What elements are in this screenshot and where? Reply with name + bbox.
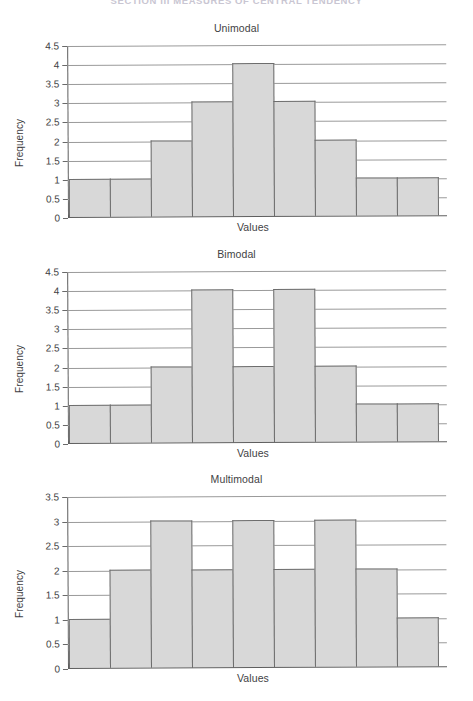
y-tick-mark <box>63 620 68 621</box>
chart-title-bimodal: Bimodal <box>0 248 473 260</box>
y-tick-label: 1.5 <box>46 381 60 392</box>
y-tick-mark <box>63 571 68 572</box>
x-axis-label-multimodal: Values <box>68 672 438 684</box>
y-tick-label: 1.5 <box>46 590 60 601</box>
y-tick-mark <box>63 425 68 426</box>
y-axis-label-unimodal: Frequency <box>14 155 25 167</box>
bar <box>192 569 234 667</box>
y-tick-label: 4.5 <box>45 41 59 52</box>
y-tick-mark <box>63 387 68 388</box>
y-tick-mark <box>63 348 68 349</box>
bar-group-bimodal <box>68 270 438 443</box>
y-tick-label: 3.5 <box>45 305 59 316</box>
bar <box>191 289 234 442</box>
y-tick-mark <box>63 406 68 407</box>
bar <box>356 568 398 666</box>
y-tick-label: 3.5 <box>45 79 59 90</box>
y-tick-label: 4 <box>54 286 60 297</box>
chart-title-multimodal: Multimodal <box>0 473 473 485</box>
bar <box>69 619 111 668</box>
y-tick-label: 3 <box>54 516 60 527</box>
bar <box>232 63 275 216</box>
y-tick-label: 1.5 <box>46 155 60 166</box>
y-tick-label: 0 <box>54 439 60 450</box>
bar <box>356 403 398 441</box>
bar-group-unimodal <box>68 44 438 217</box>
bar <box>315 139 357 216</box>
y-tick-label: 2.5 <box>46 117 60 128</box>
y-axis-label-multimodal: Frequency <box>14 606 25 618</box>
bar <box>110 404 152 442</box>
bar <box>233 366 275 443</box>
y-tick-mark <box>63 644 68 645</box>
bar <box>274 569 316 667</box>
y-tick-label: 0 <box>54 664 60 675</box>
bar <box>273 101 316 216</box>
y-tick-mark <box>62 546 67 547</box>
y-tick-label: 4 <box>54 60 60 71</box>
y-tick-label: 0.5 <box>46 419 60 430</box>
y-tick-label: 0.5 <box>46 193 60 204</box>
y-tick-mark <box>63 142 68 143</box>
y-tick-mark <box>62 103 67 104</box>
bar <box>110 178 152 216</box>
y-tick-label: 3 <box>54 98 60 109</box>
bar <box>315 365 357 442</box>
bar <box>397 403 439 441</box>
y-tick-mark <box>62 65 67 66</box>
bar <box>314 519 357 667</box>
y-tick-label: 2 <box>54 362 60 373</box>
y-tick-label: 1 <box>54 614 60 625</box>
bar <box>150 520 193 668</box>
plot-area-unimodal: 00.511.522.533.544.5 <box>67 44 438 218</box>
y-tick-mark <box>63 122 68 123</box>
y-tick-label: 2.5 <box>45 541 59 552</box>
y-tick-label: 4.5 <box>45 267 59 278</box>
y-tick-mark <box>63 199 68 200</box>
bar <box>232 520 275 668</box>
bar <box>273 289 316 442</box>
x-axis-label-bimodal: Values <box>68 447 438 459</box>
y-tick-mark <box>62 46 67 47</box>
y-tick-mark <box>62 291 67 292</box>
y-tick-mark <box>62 84 67 85</box>
figure-multimodal: Multimodal Frequency 00.511.522.533.5 Va… <box>0 473 473 688</box>
y-tick-mark <box>63 669 68 670</box>
y-tick-label: 2 <box>54 565 60 576</box>
y-tick-mark <box>62 497 67 498</box>
y-tick-mark <box>62 272 67 273</box>
running-head: SECTION III MEASURES OF CENTRAL TENDENCY <box>0 0 473 4</box>
y-axis-label-bimodal: Frequency <box>14 381 25 393</box>
bar <box>69 179 111 217</box>
y-tick-mark <box>63 595 68 596</box>
y-tick-mark <box>62 329 67 330</box>
bar <box>397 617 439 666</box>
plot-area-multimodal: 00.511.522.533.5 <box>67 495 438 669</box>
y-tick-label: 0.5 <box>46 639 60 650</box>
y-tick-label: 3.5 <box>45 492 59 503</box>
bar <box>356 177 398 215</box>
bar <box>397 177 439 215</box>
x-axis-label-unimodal: Values <box>68 221 438 233</box>
y-tick-label: 1 <box>54 174 60 185</box>
bar-group-multimodal <box>68 495 438 668</box>
y-tick-mark <box>63 218 68 219</box>
y-tick-mark <box>63 161 68 162</box>
y-tick-label: 1 <box>54 400 60 411</box>
bar <box>151 140 193 217</box>
y-tick-label: 3 <box>54 324 60 335</box>
chart-title-unimodal: Unimodal <box>0 22 473 34</box>
bar <box>110 569 152 667</box>
bar <box>191 102 234 217</box>
y-tick-mark <box>62 522 67 523</box>
y-tick-label: 2 <box>54 136 60 147</box>
bar <box>69 405 111 443</box>
y-tick-mark <box>63 368 68 369</box>
y-tick-mark <box>62 310 67 311</box>
bar <box>151 366 193 443</box>
y-tick-mark <box>63 180 68 181</box>
y-tick-mark <box>63 444 68 445</box>
figure-unimodal: Unimodal Frequency 00.511.522.533.544.5 … <box>0 22 473 237</box>
plot-area-bimodal: 00.511.522.533.544.5 <box>67 270 438 444</box>
y-tick-label: 0 <box>54 213 60 224</box>
